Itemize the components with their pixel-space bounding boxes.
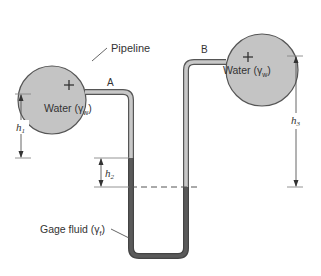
h2-dimension: h2 <box>94 158 129 187</box>
gage-fluid-leader-line <box>111 229 129 238</box>
manometer-tube <box>85 62 226 256</box>
point-a-label: A <box>107 77 114 88</box>
left-tube-water <box>85 92 131 158</box>
gage-fluid-outline <box>131 158 186 256</box>
pipeline-leader-line <box>92 48 107 61</box>
right-tube-outline <box>186 62 226 187</box>
h2-arrow-down-icon <box>99 180 104 187</box>
left-tube-outline <box>85 92 131 158</box>
gage-fluid-label: Gage fluid (γf) <box>40 223 105 237</box>
h3-arrow-down-icon <box>294 180 299 187</box>
manometer-diagram: Pipeline A B Water (γw) Water (γw) Gage … <box>0 0 321 276</box>
gage-fluid-column <box>131 158 186 256</box>
point-b-label: B <box>201 44 208 55</box>
right-tube-water <box>186 62 226 187</box>
h2-arrow-up-icon <box>99 158 104 165</box>
pipeline-label: Pipeline <box>111 42 150 54</box>
h1-arrow-down-icon <box>19 151 24 158</box>
h2-label: h2 <box>105 167 115 181</box>
